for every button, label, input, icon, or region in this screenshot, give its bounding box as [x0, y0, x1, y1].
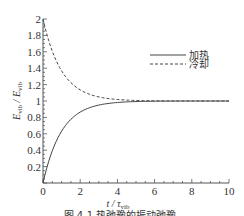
legend: 加热冷却 — [150, 49, 209, 70]
y-tick-label: 1.2 — [27, 79, 41, 91]
x-tick-label: 0 — [40, 185, 46, 197]
x-tick-label: 6 — [152, 185, 158, 197]
chart: 02468100.20.40.60.811.21.41.61.82 加热冷却 t… — [0, 0, 244, 216]
legend-label: 冷却 — [189, 58, 209, 70]
series-group — [43, 19, 229, 183]
y-tick-label: 1 — [36, 95, 42, 107]
ticks: 02468100.20.40.60.811.21.41.61.82 — [27, 13, 235, 197]
figure-caption: 图 4-1 热弛豫的振动弛豫 — [64, 209, 177, 216]
y-axis-label-num: E — [11, 114, 22, 121]
y-axis-label-slash: / E — [11, 91, 22, 105]
y-tick-label: 0.6 — [27, 128, 41, 140]
y-tick-label: 0.8 — [27, 111, 41, 123]
y-axis-label-den-sub: vib — [16, 82, 24, 91]
y-axis-label: Evib / Evib — [11, 82, 24, 121]
y-tick-label: 0.2 — [27, 161, 41, 173]
x-tick-label: 4 — [115, 185, 121, 197]
y-tick-label: 2 — [36, 13, 42, 25]
y-tick-label: 1.4 — [27, 62, 41, 74]
x-tick-label: 10 — [224, 185, 236, 197]
x-tick-label: 2 — [77, 185, 83, 197]
y-tick-label: 1.8 — [27, 29, 41, 41]
y-tick-label: 1.6 — [27, 46, 41, 58]
series-line-heating — [43, 101, 229, 183]
x-tick-label: 8 — [189, 185, 195, 197]
y-tick-label: 0.4 — [27, 144, 41, 156]
